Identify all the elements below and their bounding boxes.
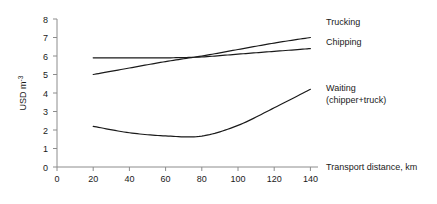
series-label-chipping: Chipping xyxy=(326,37,362,47)
x-axis-title: Transport distance, km xyxy=(326,162,417,172)
chart-container: 0 1 2 3 4 5 6 7 8 0 20 40 60 80 xyxy=(0,0,437,204)
series-label-waiting: Waiting xyxy=(326,83,356,93)
x-tick-label: 140 xyxy=(303,174,318,184)
x-tick-label: 80 xyxy=(197,174,207,184)
line-chart: 0 1 2 3 4 5 6 7 8 0 20 40 60 80 xyxy=(0,0,437,204)
y-axis-title: USD m-3 xyxy=(17,75,29,110)
y-tick-label: 2 xyxy=(43,126,48,136)
y-tick-label: 8 xyxy=(43,15,48,25)
y-tick-label: 5 xyxy=(43,70,48,80)
series-label-trucking: Trucking xyxy=(326,17,360,27)
x-tick-label: 0 xyxy=(54,174,59,184)
series-line-waiting xyxy=(93,89,310,137)
y-axis-title-exponent: -3 xyxy=(17,75,24,81)
series-line-trucking xyxy=(93,38,310,75)
x-axis-ticks xyxy=(57,167,310,171)
y-tick-label: 7 xyxy=(43,33,48,43)
x-axis-tick-labels: 0 20 40 60 80 100 120 140 xyxy=(54,174,317,184)
y-tick-label: 3 xyxy=(43,107,48,117)
svg-text:USD m-3: USD m-3 xyxy=(17,75,29,110)
x-tick-label: 40 xyxy=(124,174,134,184)
y-tick-label: 4 xyxy=(43,89,48,99)
y-axis-ticks xyxy=(53,19,57,167)
series-label-waiting-detail: (chipper+truck) xyxy=(326,95,386,105)
x-tick-label: 100 xyxy=(230,174,245,184)
x-tick-label: 20 xyxy=(88,174,98,184)
y-tick-label: 6 xyxy=(43,52,48,62)
y-tick-label: 1 xyxy=(43,144,48,154)
y-axis-title-main: USD m xyxy=(18,81,28,110)
series-line-chipping xyxy=(93,49,310,58)
x-tick-label: 60 xyxy=(161,174,171,184)
y-axis-tick-labels: 0 1 2 3 4 5 6 7 8 xyxy=(43,15,48,173)
x-tick-label: 120 xyxy=(267,174,282,184)
y-tick-label: 0 xyxy=(43,163,48,173)
